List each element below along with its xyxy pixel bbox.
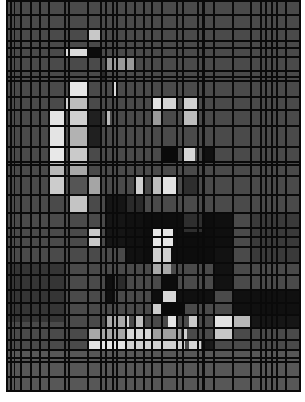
grid-line-horizontal bbox=[6, 70, 301, 72]
grid-line-horizontal bbox=[6, 314, 301, 316]
mosaic-tile bbox=[48, 175, 64, 194]
grid-line-horizontal bbox=[6, 194, 301, 196]
grid-line-horizontal bbox=[6, 109, 301, 111]
mosaic-tile bbox=[184, 175, 197, 195]
grid-line-horizontal bbox=[6, 56, 301, 58]
grid-line-vertical bbox=[265, 0, 267, 392]
mosaic-tile bbox=[88, 175, 100, 194]
grid-line-vertical bbox=[112, 0, 114, 392]
grid-line-horizontal bbox=[6, 376, 301, 378]
mosaic-tile bbox=[182, 212, 202, 232]
mosaic-tile bbox=[118, 274, 125, 289]
mosaic-tile bbox=[105, 58, 135, 70]
grid-line-horizontal bbox=[6, 327, 301, 329]
grid-line-horizontal bbox=[6, 0, 301, 2]
grid-line-horizontal bbox=[6, 236, 301, 238]
grid-line-vertical bbox=[176, 0, 178, 392]
mosaic-tile bbox=[70, 109, 87, 125]
grid-line-horizontal bbox=[6, 125, 301, 127]
grid-line-horizontal bbox=[6, 289, 301, 291]
grid-line-vertical bbox=[299, 0, 301, 392]
grid-line-horizontal bbox=[6, 227, 301, 229]
grid-line-vertical bbox=[285, 0, 287, 392]
grid-line-vertical bbox=[100, 0, 102, 392]
grid-line-vertical bbox=[161, 0, 163, 392]
mosaic-tile bbox=[184, 109, 197, 125]
mosaic-tile bbox=[70, 194, 87, 212]
grid-line-vertical bbox=[105, 0, 107, 392]
grid-line-vertical bbox=[151, 0, 153, 392]
mosaic-tile bbox=[88, 109, 100, 146]
grid-line-vertical bbox=[250, 0, 252, 392]
grid-line-vertical bbox=[10, 0, 12, 392]
grid-line-vertical bbox=[197, 0, 199, 392]
mosaic-tile bbox=[70, 175, 87, 194]
grid-line-horizontal bbox=[6, 76, 301, 78]
mosaic-tile bbox=[70, 146, 87, 161]
grid-line-horizontal bbox=[6, 339, 301, 341]
mosaic-tile bbox=[163, 146, 176, 161]
mosaic-tile bbox=[105, 194, 125, 246]
grid-line-vertical bbox=[39, 0, 41, 392]
grid-line-horizontal bbox=[6, 175, 301, 177]
grid-line-vertical bbox=[260, 0, 262, 392]
grid-line-horizontal bbox=[6, 302, 301, 304]
grid-line-horizontal bbox=[6, 28, 301, 30]
grid-line-horizontal bbox=[6, 47, 301, 49]
grid-line-vertical bbox=[87, 0, 89, 392]
mosaic-tile bbox=[70, 125, 87, 146]
grid-line-vertical bbox=[276, 0, 278, 392]
grid-line-horizontal bbox=[6, 164, 301, 166]
grid-line-vertical bbox=[134, 0, 136, 392]
mosaic-tile bbox=[48, 109, 64, 146]
grid-line-horizontal bbox=[6, 80, 301, 82]
mosaic-tile bbox=[6, 349, 301, 390]
grid-line-vertical bbox=[68, 0, 70, 392]
mosaic-artwork bbox=[6, 0, 301, 392]
grid-line-vertical bbox=[143, 0, 145, 392]
grid-line-horizontal bbox=[6, 40, 301, 42]
grid-line-vertical bbox=[182, 0, 184, 392]
grid-line-horizontal bbox=[6, 349, 301, 351]
grid-line-vertical bbox=[232, 0, 234, 392]
mosaic-tile bbox=[163, 175, 176, 194]
mosaic-tile bbox=[70, 80, 87, 96]
grid-line-horizontal bbox=[6, 274, 301, 276]
mosaic-tile bbox=[213, 246, 232, 289]
grid-line-horizontal bbox=[6, 96, 301, 98]
grid-line-vertical bbox=[6, 0, 8, 392]
grid-line-horizontal bbox=[6, 246, 301, 248]
grid-line-vertical bbox=[213, 0, 215, 392]
grid-line-vertical bbox=[271, 0, 273, 392]
mosaic-tile bbox=[153, 175, 161, 194]
grid-line-horizontal bbox=[6, 146, 301, 148]
grid-line-vertical bbox=[125, 0, 127, 392]
grid-line-vertical bbox=[30, 0, 32, 392]
grid-line-vertical bbox=[20, 0, 22, 392]
grid-line-vertical bbox=[202, 0, 205, 392]
grid-line-vertical bbox=[48, 0, 50, 392]
grid-line-horizontal bbox=[6, 361, 301, 363]
grid-line-vertical bbox=[14, 0, 15, 392]
mosaic-tile bbox=[205, 146, 213, 161]
grid-line-vertical bbox=[64, 0, 66, 392]
mosaic-tile bbox=[213, 212, 232, 246]
grid-line-horizontal bbox=[6, 14, 301, 16]
grid-line-vertical bbox=[116, 0, 118, 392]
grid-line-horizontal bbox=[6, 262, 301, 264]
grid-line-horizontal bbox=[6, 357, 301, 359]
mosaic-tile bbox=[161, 274, 176, 289]
grid-line-horizontal bbox=[6, 161, 301, 163]
grid-line-horizontal bbox=[6, 390, 301, 392]
mosaic-tile bbox=[48, 146, 64, 161]
grid-line-horizontal bbox=[6, 212, 301, 214]
